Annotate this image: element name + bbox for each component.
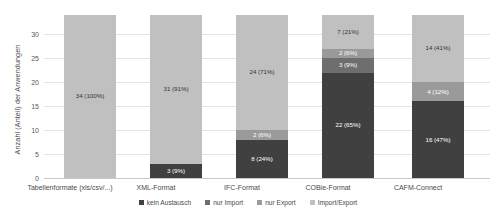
bar-segment-label: 2 (6%) — [339, 50, 357, 56]
bar-segment-label: 14 (41%) — [425, 45, 450, 51]
y-tick-10: 10 — [31, 127, 39, 134]
bar-column-cobie-format[interactable]: 22 (65%) 3 (9%) 2 (6%) 7 (21%) — [322, 15, 374, 178]
bar-segment-label: 16 (47%) — [425, 137, 450, 143]
legend-swatch-icon — [139, 200, 144, 205]
bar-segment-kein-austausch[interactable]: 16 (47%) — [412, 101, 464, 178]
legend-label: Import/Export — [318, 199, 358, 206]
legend-swatch-icon — [310, 200, 315, 205]
legend-item-kein-austausch[interactable]: kein Austausch — [139, 199, 191, 206]
stacked-bar-chart: Anzahl (Anteil) der Anwendungen 30 25 20… — [0, 0, 496, 216]
bar-segment-label: 3 (9%) — [167, 168, 185, 174]
bar-segment-label: 24 (71%) — [249, 69, 274, 75]
bar-segment-label: 8 (24%) — [251, 156, 273, 162]
y-tick-0: 0 — [35, 175, 39, 182]
bar-column-ifc-format[interactable]: 8 (24%) 2 (6%) 24 (71%) — [236, 15, 288, 178]
bar-segment-label: 31 (91%) — [163, 86, 188, 92]
bar-segment-label: 7 (21%) — [337, 29, 359, 35]
bar-segment-nur-import[interactable]: 3 (9%) — [322, 58, 374, 72]
bar-column-cafm-connect[interactable]: 16 (47%) 4 (12%) 14 (41%) — [412, 15, 464, 178]
legend-swatch-icon — [205, 200, 210, 205]
legend: kein Austausch nur Import nur Export Imp… — [0, 199, 496, 206]
bar-segment-label: 22 (65%) — [335, 122, 360, 128]
bar-segment-nur-export[interactable]: 4 (12%) — [412, 82, 464, 101]
bar-segment-kein-austausch[interactable]: 3 (9%) — [150, 164, 202, 178]
legend-swatch-icon — [257, 200, 262, 205]
bar-segment-nur-export[interactable]: 2 (6%) — [236, 130, 288, 140]
bar-segment-nur-export[interactable]: 2 (6%) — [322, 49, 374, 59]
legend-item-import-export[interactable]: Import/Export — [310, 199, 358, 206]
plot-area: 30 25 20 15 10 5 0 34 (100%) 3 (9%) — [44, 15, 490, 179]
legend-item-nur-import[interactable]: nur Import — [205, 199, 243, 206]
legend-label: kein Austausch — [147, 199, 191, 206]
legend-label: nur Export — [265, 199, 295, 206]
y-tick-20: 20 — [31, 79, 39, 86]
bar-segment-kein-austausch[interactable]: 8 (24%) — [236, 140, 288, 178]
bar-segment-label: 2 (6%) — [253, 132, 271, 138]
y-tick-15: 15 — [31, 103, 39, 110]
y-axis-title: Anzahl (Anteil) der Anwendungen — [13, 25, 22, 175]
x-axis-line: 0 — [44, 178, 490, 179]
bar-segment-import-export[interactable]: 31 (91%) — [150, 15, 202, 164]
x-label-cafm-connect: CAFM-Connect — [358, 184, 478, 191]
y-tick-25: 25 — [31, 55, 39, 62]
bar-segment-label: 4 (12%) — [427, 89, 449, 95]
y-tick-5: 5 — [35, 151, 39, 158]
bar-segment-label: 3 (9%) — [339, 62, 357, 68]
bar-segment-label: 34 (100%) — [76, 93, 105, 99]
y-tick-30: 30 — [31, 31, 39, 38]
legend-item-nur-export[interactable]: nur Export — [257, 199, 295, 206]
bar-segment-kein-austausch[interactable]: 22 (65%) — [322, 73, 374, 179]
bar-segment-import-export[interactable]: 14 (41%) — [412, 15, 464, 82]
legend-label: nur Import — [213, 199, 243, 206]
bar-column-xml-format[interactable]: 3 (9%) 31 (91%) — [150, 15, 202, 178]
bar-segment-import-export[interactable]: 7 (21%) — [322, 15, 374, 49]
bar-column-tabellenformate[interactable]: 34 (100%) — [64, 15, 116, 178]
bar-segment-import-export[interactable]: 34 (100%) — [64, 15, 116, 178]
bar-segment-import-export[interactable]: 24 (71%) — [236, 15, 288, 130]
